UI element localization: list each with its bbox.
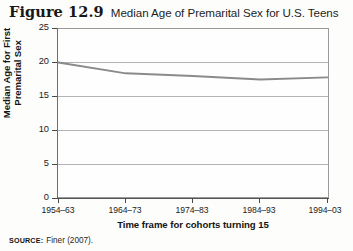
source-value: Finer (2007). — [46, 236, 93, 245]
x-tick-label-2: 1974–83 — [176, 205, 209, 215]
x-tick-0 — [58, 198, 59, 203]
plot-area — [57, 28, 329, 198]
y-tick-label-0: 0 — [33, 192, 49, 202]
x-axis-title: Time frame for cohorts turning 15 — [57, 219, 329, 230]
x-tick-1 — [125, 198, 126, 203]
x-tick-label-0: 1954–63 — [42, 205, 75, 215]
y-tick-10 — [52, 130, 57, 131]
figure-title: Figure 12.9 Median Age of Premarital Sex… — [9, 3, 349, 20]
x-tick-label-1: 1964–73 — [109, 205, 142, 215]
source-label: SOURCE: — [9, 236, 43, 245]
y-tick-25 — [52, 28, 57, 29]
figure-caption: Median Age of Premarital Sex for U.S. Te… — [111, 6, 339, 19]
x-tick-2 — [192, 198, 193, 203]
x-tick-4 — [327, 198, 328, 203]
data-series-line — [58, 29, 328, 197]
y-axis-title: Median Age for First Premarital Sex — [0, 12, 28, 134]
figure-container: Figure 12.9 Median Age of Premarital Sex… — [0, 0, 353, 251]
y-tick-20 — [52, 62, 57, 63]
y-tick-label-5: 5 — [33, 158, 49, 168]
y-tick-15 — [52, 96, 57, 97]
x-tick-label-4: 1994–03 — [309, 205, 342, 215]
source-note: SOURCE: Finer (2007). — [9, 236, 93, 245]
y-tick-label-10: 10 — [33, 124, 49, 134]
y-tick-label-15: 15 — [33, 90, 49, 100]
y-axis-line — [57, 28, 58, 198]
y-tick-5 — [52, 164, 57, 165]
x-tick-3 — [259, 198, 260, 203]
y-tick-label-20: 20 — [33, 56, 49, 66]
x-axis-line — [57, 198, 329, 199]
y-axis-title-line2: Premarital Sex — [13, 40, 24, 105]
x-tick-label-3: 1984–93 — [243, 205, 276, 215]
y-tick-label-25: 25 — [33, 22, 49, 32]
